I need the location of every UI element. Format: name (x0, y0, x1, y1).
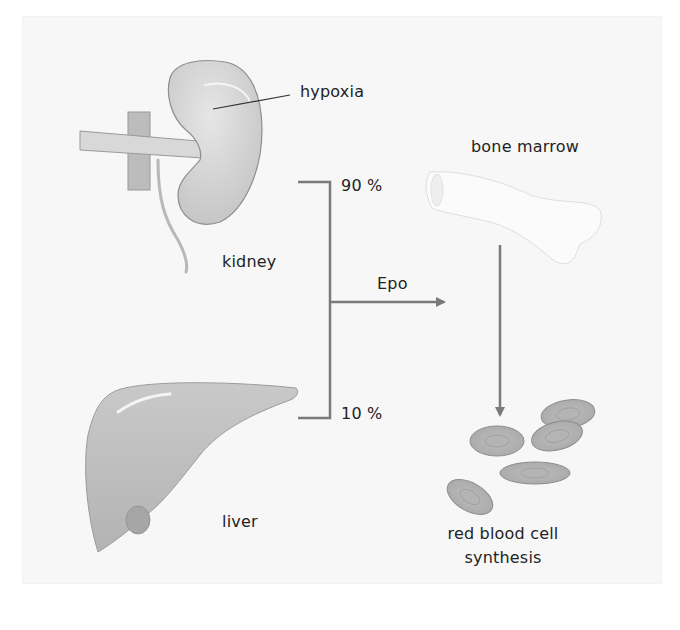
bone-illustration (426, 172, 601, 264)
liver-label: liver (222, 512, 258, 531)
kidney-label: kidney (222, 252, 277, 271)
gallbladder-icon (126, 506, 150, 534)
hypoxia-label: hypoxia (300, 82, 364, 101)
ureter-icon (158, 160, 187, 272)
epo-label: Epo (377, 274, 408, 293)
bone-marrow-label: bone marrow (471, 137, 579, 156)
kidney-percent-label: 90 % (341, 176, 382, 195)
red-blood-cells-illustration (441, 396, 596, 521)
rbc-label-line1: red blood cell (438, 524, 568, 543)
kidney-illustration (80, 61, 290, 272)
source-bracket (298, 182, 330, 418)
liver-percent-label: 10 % (341, 404, 382, 423)
liver-illustration (86, 383, 298, 552)
rbc-label-line2: synthesis (438, 548, 568, 567)
